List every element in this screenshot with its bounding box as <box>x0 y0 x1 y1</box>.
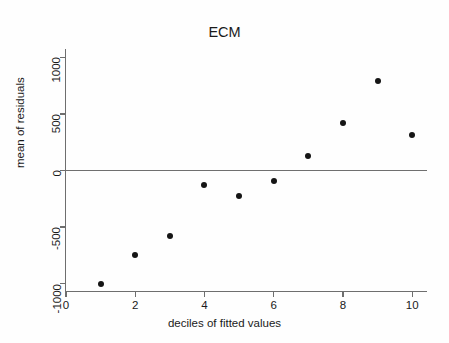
x-tick-label: 10 <box>406 300 419 312</box>
y-tick-label: -500 <box>51 227 63 250</box>
data-point <box>167 233 173 239</box>
data-point <box>271 178 277 184</box>
x-tick-label: 6 <box>270 300 276 312</box>
y-axis-title: mean of residuals <box>14 77 26 168</box>
x-tick-label: 4 <box>201 300 207 312</box>
data-point <box>98 281 104 287</box>
y-tick-label: 1000 <box>51 57 63 83</box>
data-point <box>340 120 346 126</box>
x-tick <box>135 292 136 297</box>
x-tick <box>412 292 413 297</box>
x-tick-label: 8 <box>340 300 346 312</box>
data-point <box>375 78 381 84</box>
y-tick-label: 500 <box>51 114 63 133</box>
y-tick-label: 0 <box>51 170 63 176</box>
x-tick-label: 2 <box>132 300 138 312</box>
data-point <box>409 132 415 138</box>
x-tick <box>204 292 205 297</box>
data-point <box>236 193 242 199</box>
data-point <box>305 153 311 159</box>
x-tick <box>273 292 274 297</box>
x-tick-label: 0 <box>63 300 69 312</box>
x-tick <box>342 292 343 297</box>
data-point <box>132 252 138 258</box>
data-point <box>201 182 207 188</box>
chart-figure: ECM mean of residuals deciles of fitted … <box>0 0 449 343</box>
y-tick-label: -1000 <box>51 284 63 313</box>
x-axis-title: deciles of fitted values <box>0 317 449 329</box>
plot-area <box>66 46 426 292</box>
x-tick <box>65 292 66 297</box>
chart-title: ECM <box>0 24 449 40</box>
